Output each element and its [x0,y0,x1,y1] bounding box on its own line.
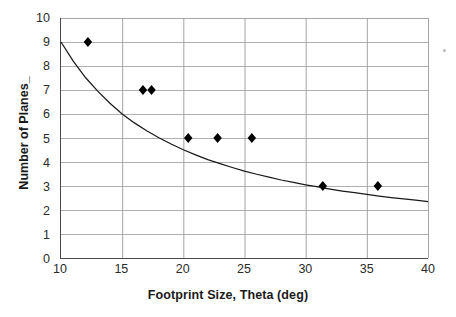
x-axis-tick-label: 10 [53,263,67,276]
y-axis-tick-label: 3 [43,180,50,193]
fitted-curve-line [61,42,428,202]
data-point-marker [213,133,221,143]
x-axis-tick-label: 40 [421,263,435,276]
y-axis-tick-label: 9 [43,36,50,49]
speck-artifact [443,49,446,52]
y-axis-tick-label: 1 [43,229,50,242]
x-axis-tick-labels: 10152025303540 [60,263,428,283]
data-point-marker [139,85,147,95]
chart-container: 012345678910 10152025303540 Footprint Si… [0,0,456,317]
x-axis-tick-label: 20 [176,263,190,276]
y-axis-tick-label: 0 [43,253,50,266]
horizontal-gridlines [61,18,428,234]
x-axis-tick-label: 35 [360,263,374,276]
plot-svg [61,18,428,258]
y-axis-tick-label: 6 [43,108,50,121]
x-axis-tick-label: 15 [114,263,128,276]
y-axis-tick-label: 5 [43,132,50,145]
data-point-marker [84,37,92,47]
y-axis-title: Number of Planes_ [17,43,31,223]
x-axis-tick-label: 25 [237,263,251,276]
y-axis-tick-label: 4 [43,156,50,169]
y-axis-tick-label: 10 [36,12,50,25]
plot-area [60,18,428,259]
data-point-marker [248,133,256,143]
y-axis-tick-label: 7 [43,84,50,97]
y-axis-tick-label: 8 [43,60,50,73]
data-point-marker [147,85,155,95]
y-axis-tick-label: 2 [43,205,50,218]
data-point-marker [184,133,192,143]
x-axis-tick-label: 30 [298,263,312,276]
vertical-gridlines [123,18,429,258]
data-point-marker [374,181,382,191]
data-point-marker [319,181,327,191]
x-axis-title: Footprint Size, Theta (deg) [0,288,456,302]
